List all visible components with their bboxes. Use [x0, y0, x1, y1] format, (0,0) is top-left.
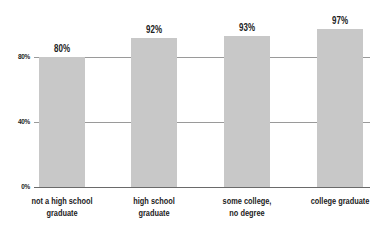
y-tick-label-40: 40%	[8, 117, 30, 126]
bar	[131, 38, 177, 188]
bar	[224, 36, 270, 187]
x-category-label: not a high school graduate	[21, 195, 103, 219]
y-tick-label-80: 80%	[8, 52, 30, 61]
bar-value-label: 92%	[130, 24, 178, 35]
bar-value-label: 80%	[38, 43, 86, 54]
y-tick-label-0: 0%	[8, 182, 30, 191]
x-category-label: high school graduate	[113, 195, 195, 219]
bar	[39, 57, 85, 187]
bar-value-label: 93%	[223, 22, 271, 33]
bar	[317, 29, 363, 187]
x-category-label: some college, no degree	[206, 195, 288, 219]
baseline-0	[34, 187, 370, 188]
x-category-label: college graduate	[299, 195, 381, 207]
bar-value-label: 97%	[316, 15, 364, 26]
bar-chart: 80% 40% 0% 80%not a high school graduate…	[0, 0, 386, 230]
